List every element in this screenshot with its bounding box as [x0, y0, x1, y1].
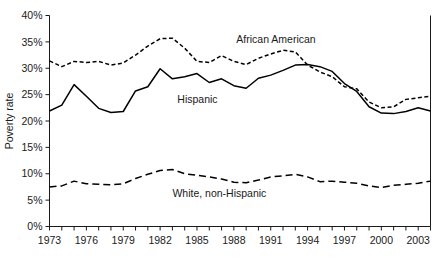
- y-axis-tick-labels: 0%5%10%15%20%25%30%35%40%: [21, 9, 42, 232]
- y-axis-ticks: [46, 16, 50, 227]
- poverty-rate-line-chart: 0%5%10%15%20%25%30%35%40% 19731976197919…: [0, 0, 443, 259]
- x-tick-label: 1994: [296, 234, 320, 246]
- series-annotation-african-american: African American: [236, 33, 316, 45]
- y-tick-label: 25%: [21, 88, 42, 100]
- y-tick-label: 35%: [21, 36, 42, 48]
- series-line-white-non-hispanic: [50, 170, 431, 188]
- x-tick-label: 1982: [148, 234, 172, 246]
- data-series-lines: [50, 38, 431, 187]
- x-tick-label: 1988: [222, 234, 246, 246]
- x-tick-label: 1979: [112, 234, 136, 246]
- y-tick-label: 30%: [21, 62, 42, 74]
- series-annotation-white-non-hispanic: White, non-Hispanic: [172, 187, 266, 199]
- x-tick-label: 1985: [185, 234, 209, 246]
- x-axis-tick-labels: 1973197619791982198519881991199419972000…: [38, 234, 430, 246]
- y-tick-label: 0%: [27, 220, 42, 232]
- y-tick-label: 15%: [21, 141, 42, 153]
- x-tick-label: 1973: [38, 234, 62, 246]
- x-tick-label: 1991: [259, 234, 283, 246]
- series-annotation-hispanic: Hispanic: [177, 93, 217, 105]
- series-line-hispanic: [50, 65, 431, 114]
- y-tick-label: 20%: [21, 115, 42, 127]
- x-tick-label: 2003: [407, 234, 431, 246]
- x-axis-ticks: [50, 227, 431, 231]
- series-line-african-american: [50, 38, 431, 108]
- y-tick-label: 40%: [21, 9, 42, 21]
- y-axis-title: Poverty rate: [3, 93, 15, 150]
- y-tick-label: 5%: [27, 194, 42, 206]
- x-tick-label: 1976: [75, 234, 99, 246]
- x-tick-label: 2000: [370, 234, 394, 246]
- y-tick-label: 10%: [21, 167, 42, 179]
- x-tick-label: 1997: [333, 234, 357, 246]
- chart-canvas: 0%5%10%15%20%25%30%35%40% 19731976197919…: [0, 0, 443, 259]
- y-axis-title-text: Poverty rate: [3, 93, 15, 150]
